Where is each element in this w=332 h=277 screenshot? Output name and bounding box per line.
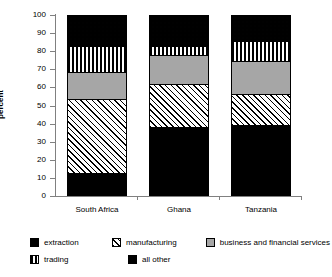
- segment-extraction: [68, 173, 126, 195]
- legend-swatch-business-icon: [206, 238, 215, 247]
- x-label-south-africa: South Africa: [57, 205, 137, 214]
- y-tick-90: [50, 33, 55, 34]
- segment-business: [232, 61, 290, 94]
- y-tick-10: [50, 178, 55, 179]
- x-label-tanzania: Tanzania: [221, 205, 301, 214]
- legend-label-extraction: extraction: [44, 238, 79, 247]
- stacked-bar-chart: percent 100 90 80 70 60 50 40 30 20 10 0: [0, 0, 332, 277]
- legend-item-all-other: all other: [128, 255, 240, 264]
- segment-manufacturing: [150, 84, 208, 127]
- x-tick-1: [137, 196, 138, 200]
- legend-item-trading: trading: [30, 255, 128, 264]
- segment-all-other: [150, 16, 208, 46]
- y-tick-label-70: 70: [26, 65, 46, 73]
- bar-tanzania: [231, 15, 291, 196]
- segment-trading: [150, 46, 208, 56]
- bar-south-africa: [67, 15, 127, 196]
- legend-label-all-other: all other: [142, 255, 170, 264]
- legend-label-trading: trading: [44, 255, 68, 264]
- segment-extraction: [150, 127, 208, 195]
- y-tick-label-100: 100: [26, 11, 46, 19]
- legend-row-2: trading all other: [30, 251, 330, 268]
- segment-extraction: [232, 125, 290, 195]
- segment-trading: [68, 46, 126, 72]
- bar-ghana: [149, 15, 209, 196]
- y-tick-30: [50, 142, 55, 143]
- legend-item-business: business and financial services: [206, 238, 330, 247]
- segment-trading: [232, 41, 290, 61]
- x-tick-2: [219, 196, 220, 200]
- x-axis-line: [55, 196, 301, 197]
- y-tick-label-60: 60: [26, 83, 46, 91]
- y-tick-label-10: 10: [26, 174, 46, 182]
- y-axis-title: percent: [0, 90, 5, 119]
- legend-swatch-trading-icon: [30, 255, 39, 264]
- segment-manufacturing: [232, 94, 290, 125]
- y-tick-label-30: 30: [26, 138, 46, 146]
- legend-label-manufacturing: manufacturing: [126, 238, 177, 247]
- y-tick-0: [50, 196, 55, 197]
- x-label-ghana: Ghana: [139, 205, 219, 214]
- segment-business: [150, 55, 208, 84]
- y-tick-label-40: 40: [26, 120, 46, 128]
- legend-label-business: business and financial services: [220, 238, 330, 247]
- y-tick-70: [50, 69, 55, 70]
- segment-manufacturing: [68, 99, 126, 172]
- segment-all-other: [68, 16, 126, 46]
- legend-swatch-extraction-icon: [30, 238, 39, 247]
- segment-all-other: [232, 16, 290, 41]
- legend-row-1: extraction manufacturing business and fi…: [30, 234, 330, 251]
- y-tick-label-50: 50: [26, 102, 46, 110]
- legend-swatch-all-other-icon: [128, 255, 137, 264]
- y-tick-40: [50, 124, 55, 125]
- plot-area: [56, 15, 301, 196]
- y-tick-50: [50, 106, 55, 107]
- y-tick-20: [50, 160, 55, 161]
- legend-item-manufacturing: manufacturing: [112, 238, 206, 247]
- y-tick-label-80: 80: [26, 47, 46, 55]
- segment-business: [68, 72, 126, 99]
- y-tick-label-20: 20: [26, 156, 46, 164]
- y-tick-60: [50, 87, 55, 88]
- y-tick-80: [50, 51, 55, 52]
- x-tick-3: [301, 196, 302, 200]
- legend-swatch-manufacturing-icon: [112, 238, 121, 247]
- chart-legend: extraction manufacturing business and fi…: [30, 234, 330, 268]
- y-tick-label-90: 90: [26, 29, 46, 37]
- legend-item-extraction: extraction: [30, 238, 112, 247]
- y-tick-label-0: 0: [26, 192, 46, 200]
- y-tick-100: [50, 15, 55, 16]
